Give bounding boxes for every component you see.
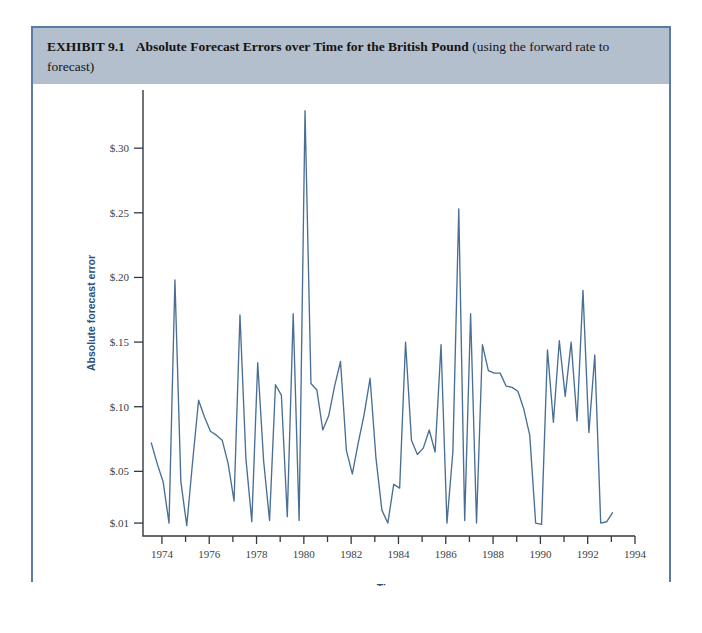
exhibit-label: EXHIBIT 9.1 [47, 39, 125, 54]
x-tick-label: 1988 [482, 548, 505, 560]
x-tick-label: 1978 [246, 548, 268, 560]
exhibit-figure: EXHIBIT 9.1Absolute Forecast Errors over… [31, 26, 671, 582]
y-tick-label: $.05 [110, 465, 130, 477]
x-tick-label: 1990 [529, 548, 552, 560]
x-tick-label: 1974 [151, 548, 174, 560]
y-tick-label: $.20 [110, 272, 130, 284]
x-tick-label: 1980 [293, 548, 316, 560]
exhibit-title-bold: Absolute Forecast Errors over Time for t… [136, 39, 469, 54]
chart-axes [143, 90, 635, 536]
y-tick-label: $.25 [110, 207, 130, 219]
exhibit-header: EXHIBIT 9.1Absolute Forecast Errors over… [33, 28, 669, 84]
exhibit-caption: EXHIBIT 9.1Absolute Forecast Errors over… [47, 37, 655, 76]
x-tick-label: 1992 [577, 548, 599, 560]
x-tick-label: 1984 [387, 548, 410, 560]
y-tick-label: $.15 [110, 336, 130, 348]
x-tick-label: 1982 [340, 548, 362, 560]
y-tick-label: $.10 [110, 401, 130, 413]
y-tick-label: $.01 [110, 517, 129, 529]
x-tick-label: 1986 [435, 548, 458, 560]
x-axis-title: Time [377, 582, 401, 586]
y-tick-label: $.30 [110, 142, 130, 154]
x-tick-label: 1994 [624, 548, 647, 560]
y-axis-title: Absolute forecast error [85, 255, 97, 371]
forecast-error-series-line [151, 111, 612, 526]
forecast-error-line-chart: $.01$.05$.10$.15$.20$.25$.30197419761978… [33, 84, 669, 586]
x-tick-label: 1976 [198, 548, 221, 560]
chart-plot-area: $.01$.05$.10$.15$.20$.25$.30197419761978… [33, 84, 669, 586]
